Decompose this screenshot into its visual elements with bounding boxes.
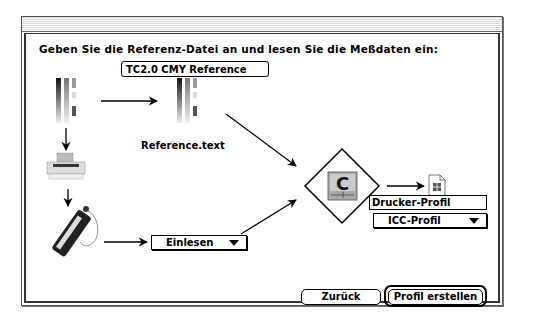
printer-icon xyxy=(47,153,85,179)
measuring-device-icon xyxy=(51,206,98,257)
arrow-icon xyxy=(241,200,296,234)
create-profile-button[interactable]: Profil erstellen xyxy=(388,289,483,305)
profile-name-field[interactable]: Drucker-Profil xyxy=(369,195,487,210)
arrow-icon xyxy=(226,114,296,166)
profile-document-icon xyxy=(429,175,445,196)
reference-file-label: Reference.text xyxy=(141,140,225,151)
colorsync-app-icon[interactable]: C xyxy=(305,149,379,223)
svg-text:C: C xyxy=(336,173,349,194)
dialog-content: Geben Sie die Referenz-Datei an und lese… xyxy=(24,33,500,303)
color-test-chart-icon xyxy=(56,78,76,123)
profile-format-popup-label: ICC-Profil xyxy=(388,215,441,226)
profile-format-popup[interactable]: ICC-Profil xyxy=(373,213,487,228)
title-bar[interactable] xyxy=(22,17,502,32)
chevron-down-icon xyxy=(469,218,479,224)
reference-chart-icon xyxy=(177,78,197,123)
read-data-popup[interactable]: Einlesen xyxy=(151,235,247,250)
dialog-window: Geben Sie die Referenz-Datei an und lese… xyxy=(21,16,503,306)
chevron-down-icon xyxy=(229,240,239,246)
workflow-diagram: C xyxy=(26,34,502,304)
read-data-popup-label: Einlesen xyxy=(166,237,213,248)
back-button[interactable]: Zurück xyxy=(301,289,381,305)
